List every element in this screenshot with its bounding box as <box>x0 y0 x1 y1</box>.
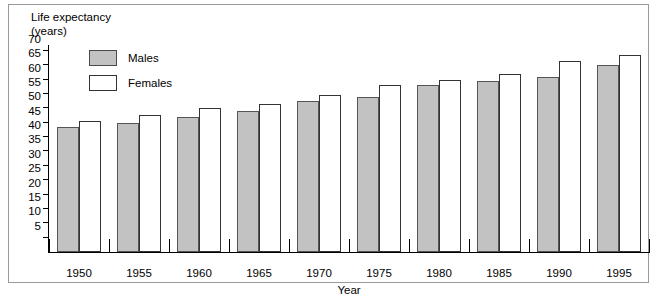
bar-group <box>349 45 409 252</box>
x-axis-tick <box>229 239 230 253</box>
bar-females-1975 <box>379 85 401 252</box>
x-axis-tick <box>169 239 170 253</box>
x-axis-tick-label: 1960 <box>186 267 212 279</box>
y-axis-tick-label: 30 <box>28 148 41 160</box>
y-axis-title: Life expectancy (years) <box>31 11 111 38</box>
y-axis-tick-label: 60 <box>28 62 41 74</box>
x-axis-title: Year <box>49 284 649 296</box>
x-axis-tick <box>289 239 290 253</box>
y-axis-tick-label: 50 <box>28 90 41 102</box>
x-axis-tick <box>409 239 410 253</box>
bar-males-1970 <box>297 101 319 252</box>
bar-group <box>229 45 289 252</box>
x-axis-tick-label: 1995 <box>606 267 632 279</box>
bar-females-1950 <box>79 121 101 252</box>
bar-females-1990 <box>559 61 581 252</box>
y-axis-tick-label: 25 <box>28 162 41 174</box>
bar-groups <box>49 45 649 252</box>
bar-males-1990 <box>537 77 559 252</box>
bar-group <box>589 45 649 252</box>
y-axis-tick-label: 55 <box>28 76 41 88</box>
x-axis-tick-label: 1950 <box>66 267 92 279</box>
x-axis-tick-label: 1970 <box>306 267 332 279</box>
bar-females-1995 <box>619 55 641 252</box>
y-axis-tick-label: 35 <box>28 133 41 145</box>
bar-group <box>169 45 229 252</box>
x-axis-tick <box>349 239 350 253</box>
bar-females-1980 <box>439 80 461 253</box>
bar-males-1960 <box>177 117 199 252</box>
bar-males-1975 <box>357 97 379 252</box>
bar-females-1955 <box>139 115 161 252</box>
y-axis-tick-label: 45 <box>28 105 41 117</box>
bar-males-1950 <box>57 127 79 252</box>
y-axis-tick-label: 5 <box>35 220 41 232</box>
chart-figure: Life expectancy (years) Males Females 51… <box>8 4 649 283</box>
x-axis-tick <box>589 239 590 253</box>
x-axis-tick <box>49 239 50 253</box>
x-axis-tick-label: 1975 <box>366 267 392 279</box>
x-axis-tick-label: 1985 <box>486 267 512 279</box>
x-axis-tick <box>529 239 530 253</box>
y-axis-tick-label: 15 <box>28 191 41 203</box>
x-axis-tick <box>109 239 110 253</box>
bar-females-1985 <box>499 74 521 252</box>
bar-females-1960 <box>199 108 221 252</box>
bar-males-1995 <box>597 65 619 252</box>
y-axis-tick-label: 70 <box>28 33 41 45</box>
x-axis-tick-label: 1980 <box>426 267 452 279</box>
bar-males-1955 <box>117 123 139 252</box>
bar-females-1970 <box>319 95 341 252</box>
bar-males-1985 <box>477 81 499 252</box>
bar-males-1965 <box>237 111 259 252</box>
bar-females-1965 <box>259 104 281 252</box>
bar-males-1980 <box>417 85 439 252</box>
bar-group <box>469 45 529 252</box>
plot-area: 510152025303540455055606570 195019551960… <box>48 45 649 253</box>
bar-group <box>289 45 349 252</box>
bar-group <box>49 45 109 252</box>
y-axis-tick-label: 40 <box>28 119 41 131</box>
x-axis-tick <box>469 239 470 253</box>
x-axis-tick-label: 1965 <box>246 267 272 279</box>
y-axis-tick-label: 20 <box>28 177 41 189</box>
bar-group <box>409 45 469 252</box>
y-axis-tick-label: 10 <box>28 205 41 217</box>
bar-group <box>109 45 169 252</box>
y-axis-tick-label: 65 <box>28 47 41 59</box>
bar-group <box>529 45 589 252</box>
x-axis-tick-label: 1990 <box>546 267 572 279</box>
x-axis-tick-label: 1955 <box>126 267 152 279</box>
x-axis-tick <box>649 239 650 253</box>
